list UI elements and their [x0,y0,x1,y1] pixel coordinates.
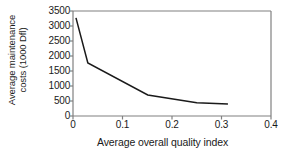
x-tick-labels: 00.10.20.30.4 [0,119,292,135]
x-tick-label: 0 [53,119,93,130]
x-axis-label: Average overall quality index [40,136,285,148]
x-tick-label: 0.4 [251,119,291,130]
x-tick-label: 0.2 [152,119,192,130]
data-line [76,18,228,104]
chart-figure: Average maintenance costs (1000 Dfl) 050… [0,0,292,163]
x-tick-label: 0.1 [103,119,143,130]
x-tick-label: 0.3 [202,119,242,130]
